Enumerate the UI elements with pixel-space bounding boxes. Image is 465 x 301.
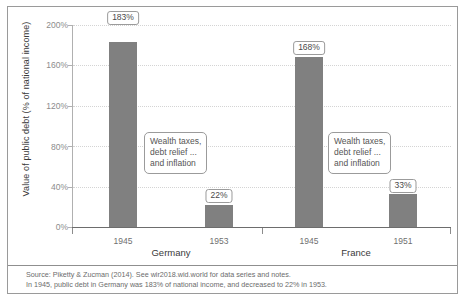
bar-label-france-1945: 168% [293,41,325,55]
annotation-line-2: debt relief ... [334,147,385,158]
bar-label-germany-1953: 22% [205,189,232,203]
bars-container: 183% 22% 168% 33% Wealth taxes, debt rel… [73,25,451,227]
x-group-separator-middle [262,228,263,234]
bar-germany-1945[interactable] [109,42,137,227]
annotation-callout-france: Wealth taxes, debt relief ... and inflat… [328,132,391,174]
chart-figure: Value of public debt (% of national inco… [7,6,458,294]
x-group-separator-right [450,228,451,234]
y-axis-tick-labels: 200% 160% 120% 80% 40% 0% [30,7,68,257]
x-tick-label-france-1951: 1951 [394,236,413,246]
x-tick-label-germany-1953: 1953 [210,236,229,246]
y-tick-label-200: 200% [34,21,68,29]
y-tick-label-0: 0% [34,223,68,231]
annotation-line-3: and inflation [334,158,385,169]
y-tick-label-120: 120% [34,102,68,110]
bar-france-1945[interactable] [295,57,323,227]
y-tick-label-80: 80% [34,143,68,151]
x-tick-label-france-1945: 1945 [300,236,319,246]
group-label-germany: Germany [151,247,190,258]
bar-germany-1953[interactable] [205,205,233,227]
bar-label-germany-1945: 183% [107,11,139,25]
y-tick-label-40: 40% [34,183,68,191]
footnote-source-line: Source: Piketty & Zucman (2014). See wir… [26,270,446,280]
x-tick-label-germany-1945: 1945 [114,236,133,246]
plot-area: Value of public debt (% of national inco… [8,7,457,257]
footnote-description-line: In 1945, public debt in Germany was 183%… [26,280,446,290]
bar-france-1951[interactable] [389,194,417,227]
footnote: Source: Piketty & Zucman (2014). See wir… [26,270,446,289]
bar-label-france-1951: 33% [389,179,416,193]
footnote-divider [8,265,457,266]
annotation-line-1: Wealth taxes, [334,136,385,147]
x-group-separator-left [72,228,73,234]
group-label-france: France [341,247,371,258]
annotation-line-2: debt relief ... [150,147,201,158]
y-tick-label-160: 160% [34,61,68,69]
annotation-callout-germany: Wealth taxes, debt relief ... and inflat… [144,132,207,174]
annotation-line-3: and inflation [150,158,201,169]
annotation-line-1: Wealth taxes, [150,136,201,147]
